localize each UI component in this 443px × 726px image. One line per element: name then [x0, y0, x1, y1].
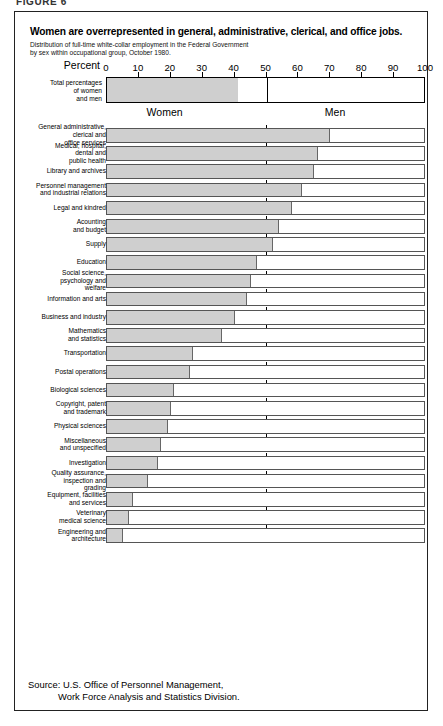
bar-row: [106, 128, 425, 143]
bar-row-label-line-1: Physical sciences: [54, 422, 106, 429]
bar-row-label-line-2: psychology and: [60, 277, 106, 284]
bar-row-label-line-1: Biological sciences: [50, 386, 106, 393]
fifty-percent-tick: [266, 271, 267, 274]
bar-row-label-line-2: and services: [69, 499, 106, 506]
bar-row: [106, 164, 425, 179]
bar-row-label-line-1: Education: [77, 258, 106, 265]
bar-women-segment: [107, 293, 247, 306]
fifty-percent-tick: [266, 471, 267, 474]
bar-row-label-line-3: welfare: [85, 284, 106, 291]
fifty-percent-tick: [266, 398, 267, 401]
fifty-percent-tick: [266, 307, 267, 310]
bar-row-label: Personnel managementand industrial relat…: [14, 182, 106, 197]
bar-women-segment: [107, 457, 158, 470]
bar-row: [106, 219, 425, 234]
bar-women-segment: [107, 238, 273, 251]
fifty-percent-tick: [266, 416, 267, 419]
bar-row-label: Transportation: [14, 349, 106, 357]
bar-row-label: Engineering andarchitecture: [14, 528, 106, 543]
bar-row-label: Acountingand budget: [14, 218, 106, 233]
bar-row-label: Mathematicsand statistics: [14, 327, 106, 342]
fifty-percent-tick: [266, 125, 267, 128]
bar-row-label: Information and arts: [14, 295, 106, 303]
bar-row-label: Quality assurance,inspection andgrading: [14, 469, 106, 492]
bar-row-label-line-1: Library and archives: [47, 167, 106, 174]
bar-row-label: Veterinarymedical science: [14, 509, 106, 524]
bar-row-label-line-2: and unspecified: [60, 444, 106, 451]
bar-row-label-line-1: Mathematics: [69, 327, 106, 334]
bar-row-label-line-2: clerical and: [73, 131, 106, 138]
bar-row-label-line-1: Transportation: [64, 349, 106, 356]
bar-row-label-line-1: Supply: [86, 240, 106, 247]
bar-row-label-line-2: medical science: [59, 517, 106, 524]
bar-women-segment: [107, 220, 279, 233]
bar-women-segment: [107, 275, 251, 288]
bar-women-segment: [107, 366, 190, 379]
bar-row: [106, 528, 425, 543]
fifty-percent-divider: [267, 78, 268, 102]
bar-women-segment: [107, 420, 168, 433]
legend-label-men: Men: [325, 106, 345, 118]
x-tick-label-0: 0: [93, 62, 119, 73]
bar-women-segment: [107, 129, 330, 142]
bar-row-label-line-1: General administrative,: [38, 123, 106, 130]
bar-row: [106, 456, 425, 471]
fifty-percent-tick: [266, 180, 267, 183]
bar-row-label-line-2: and budget: [73, 226, 106, 233]
bar-row-label-line-1: Veterinary: [76, 509, 106, 516]
bar-row: [106, 255, 425, 270]
fifty-percent-tick: [266, 198, 267, 201]
bar-row-label: Library and archives: [14, 167, 106, 175]
chart-plot-area: Percent0102030405060708090100Total perce…: [0, 0, 443, 726]
bar-row-label: Investigation: [14, 459, 106, 467]
bar-row-label-line-1: Equipment, facilities: [47, 491, 106, 498]
x-tick-label-100: 100: [412, 62, 438, 73]
fifty-percent-tick: [266, 289, 267, 292]
bar-women-segment: [107, 147, 318, 160]
bar-row: [106, 237, 425, 252]
bar-row-label: Business and industry: [14, 313, 106, 321]
fifty-percent-tick: [266, 252, 267, 255]
bar-women-segment: [107, 202, 292, 215]
bar-row: [106, 437, 425, 452]
bar-women-segment: [107, 475, 148, 488]
bar-row-label: Miscellaneousand unspecified: [14, 437, 106, 452]
fifty-percent-tick: [266, 489, 267, 492]
axis-title: Percent: [40, 59, 100, 71]
bar-row: [106, 310, 425, 325]
bar-row-label: Postal operations: [14, 368, 106, 376]
bar-row-label: Physical sciences: [14, 422, 106, 430]
legend-label-women: Women: [147, 106, 183, 118]
bar-row: [106, 346, 425, 361]
bar-row-label-line-1: Legal and kindred: [54, 204, 106, 211]
bar-women-segment: [107, 511, 129, 524]
bar-women-segment: [107, 165, 314, 178]
bar-row: [106, 401, 425, 416]
fifty-percent-tick: [266, 161, 267, 164]
source-line-2: Work Force Analysis and Statistics Divis…: [28, 691, 240, 703]
bar-row-label: Social science,psychology andwelfare: [14, 269, 106, 292]
bar-row-label: Medical, hospital,dental andpublic healt…: [14, 142, 106, 165]
bar-women-segment: [107, 438, 161, 451]
fifty-percent-tick: [266, 362, 267, 365]
bar-row-label-line-1: Postal operations: [55, 368, 106, 375]
fifty-percent-tick: [266, 453, 267, 456]
bar-row: [106, 492, 425, 507]
fifty-percent-tick: [266, 434, 267, 437]
bar-women-segment: [107, 384, 174, 397]
bar-row-label: Biological sciences: [14, 386, 106, 394]
bar-row: [106, 383, 425, 398]
bar-women-segment: [107, 184, 302, 197]
total-label-line2: of women: [73, 87, 102, 94]
bar-row-label-line-1: Personnel management: [36, 182, 106, 189]
bar-row: [106, 365, 425, 380]
bar-row-label-line-1: Social science,: [62, 269, 106, 276]
bar-women-segment: [107, 347, 193, 360]
bar-row-label-line-1: Quality assurance,: [51, 469, 106, 476]
bar-row-label-line-1: Acounting: [77, 218, 106, 225]
bar-row: [106, 201, 425, 216]
bar-row-label-line-2: and statistics: [68, 335, 106, 342]
bar-row: [106, 183, 425, 198]
total-label-line3: and men: [76, 95, 102, 102]
bar-women-segment: [107, 311, 235, 324]
